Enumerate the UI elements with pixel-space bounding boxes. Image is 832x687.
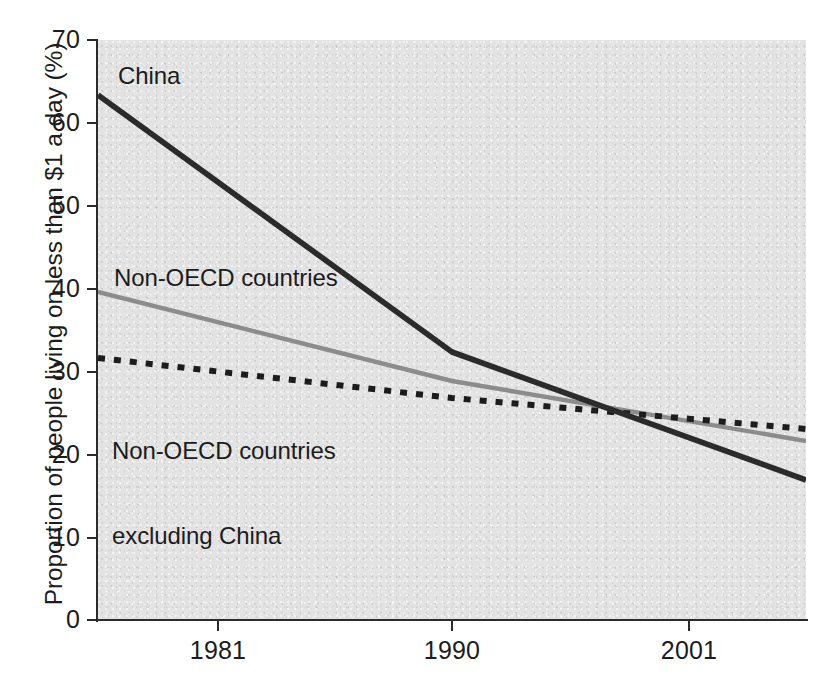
y-tick-mark-30: [87, 371, 96, 373]
y-axis-title: Proportion of people living on less than…: [40, 24, 68, 624]
series-label-non-oecd-excluding-china-line2: excluding China: [112, 522, 336, 550]
x-tick-label-2001: 2001: [661, 636, 717, 664]
y-tick-mark-10: [87, 537, 96, 539]
y-tick-mark-70: [87, 39, 96, 41]
y-tick-mark-0: [87, 619, 96, 621]
x-tick-label-1981: 1981: [190, 636, 246, 664]
series-label-non-oecd: Non-OECD countries: [114, 264, 338, 292]
y-tick-mark-20: [87, 454, 96, 456]
y-axis-line: [96, 39, 98, 622]
series-label-china: China: [118, 62, 180, 90]
x-tick-mark-1981: [217, 621, 219, 631]
x-tick-mark-2001: [688, 621, 690, 631]
x-tick-mark-1990: [451, 621, 453, 631]
series-label-non-oecd-excluding-china-line1: Non-OECD countries: [112, 437, 336, 465]
chart-figure: 70 60 50 40 30 20 10 0 1981 1990 2001 Pr…: [0, 0, 832, 687]
series-label-non-oecd-excluding-china: Non-OECD countries excluding China: [112, 380, 336, 607]
y-tick-mark-60: [87, 122, 96, 124]
x-tick-label-1990: 1990: [424, 636, 480, 664]
y-tick-mark-50: [87, 205, 96, 207]
y-tick-mark-40: [87, 288, 96, 290]
